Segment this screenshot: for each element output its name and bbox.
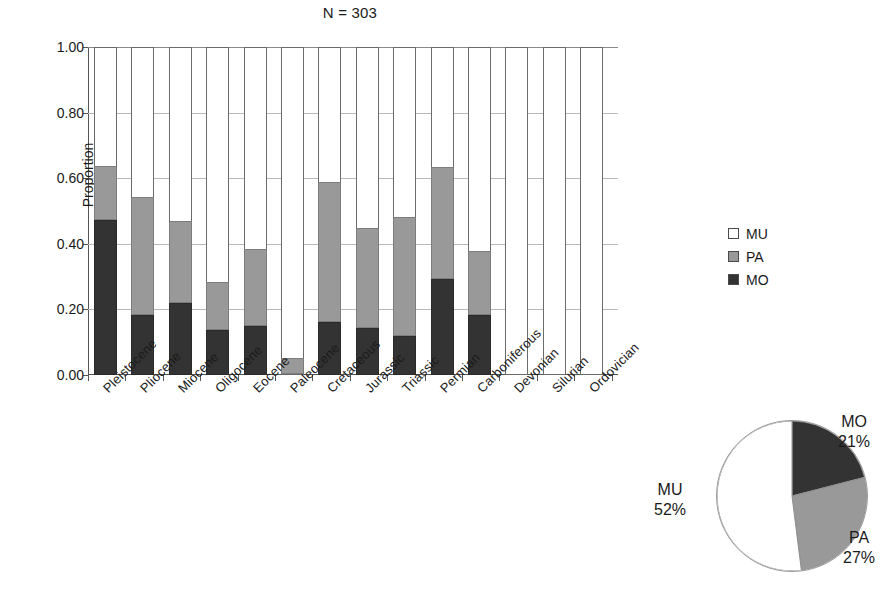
pie-label-mu: MU 52% bbox=[654, 480, 686, 520]
legend-item-mo[interactable]: MO bbox=[728, 268, 769, 291]
legend-label-pa: PA bbox=[746, 250, 764, 264]
pie-label-mu-name: MU bbox=[658, 481, 683, 498]
bar-segment-pa[interactable] bbox=[431, 167, 454, 279]
bar-segment-mo[interactable] bbox=[94, 220, 117, 375]
bar-column[interactable] bbox=[281, 47, 304, 375]
pie-label-mo-name: MO bbox=[841, 413, 867, 430]
bar-segment-pa[interactable] bbox=[244, 249, 267, 326]
plot-frame bbox=[88, 47, 618, 375]
pie-slice-mu[interactable] bbox=[717, 421, 801, 571]
chart-subtitle: N = 303 bbox=[0, 4, 700, 21]
x-tick-mark bbox=[88, 375, 89, 381]
bar-segment-pa[interactable] bbox=[169, 221, 192, 303]
legend-label-mo: MO bbox=[746, 273, 769, 287]
bar-column[interactable] bbox=[431, 47, 454, 375]
bar-segment-pa[interactable] bbox=[356, 228, 379, 328]
bar-segment-pa[interactable] bbox=[131, 197, 154, 315]
bar-segment-pa[interactable] bbox=[468, 251, 491, 315]
pie-label-pa-percent: 27% bbox=[843, 548, 875, 568]
bar-column[interactable] bbox=[393, 47, 416, 375]
gridline bbox=[88, 113, 618, 114]
pie-label-mo: MO 21% bbox=[838, 412, 870, 452]
bar-column[interactable] bbox=[580, 47, 603, 375]
y-tick-label: 1.00 bbox=[24, 39, 84, 55]
bar-column[interactable] bbox=[94, 47, 117, 375]
legend-item-mu[interactable]: MU bbox=[728, 222, 769, 245]
bar-column[interactable] bbox=[505, 47, 528, 375]
bar-column[interactable] bbox=[244, 47, 267, 375]
bar-column[interactable] bbox=[169, 47, 192, 375]
pie-label-pa: PA 27% bbox=[843, 528, 875, 568]
bar-segment-pa[interactable] bbox=[206, 282, 229, 330]
bar-column[interactable] bbox=[356, 47, 379, 375]
legend-item-pa[interactable]: PA bbox=[728, 245, 769, 268]
legend-swatch-icon-mu bbox=[728, 228, 739, 239]
legend: MUPAMO bbox=[728, 222, 769, 291]
legend-swatch-icon-mo bbox=[728, 274, 739, 285]
y-tick-label: 0.20 bbox=[24, 301, 84, 317]
legend-label-mu: MU bbox=[746, 227, 768, 241]
y-tick-label: 0.00 bbox=[24, 367, 84, 383]
bar-column[interactable] bbox=[543, 47, 566, 375]
bar-segment-pa[interactable] bbox=[94, 166, 117, 220]
bar-column[interactable] bbox=[131, 47, 154, 375]
y-tick-label: 0.80 bbox=[24, 105, 84, 121]
pie-label-pa-name: PA bbox=[849, 529, 869, 546]
plot-area: 0.000.200.400.600.801.00 Proportion Plei… bbox=[88, 47, 618, 375]
figure-stacked-bar-and-pie: N = 303 0.000.200.400.600.801.00 Proport… bbox=[0, 0, 882, 589]
gridline bbox=[88, 309, 618, 310]
gridline bbox=[88, 244, 618, 245]
bar-column[interactable] bbox=[318, 47, 341, 375]
gridline bbox=[88, 178, 618, 179]
bar-segment-pa[interactable] bbox=[318, 182, 341, 321]
pie-label-mu-percent: 52% bbox=[654, 500, 686, 520]
pie-chart-block: MO 21% PA 27% MU 52% bbox=[688, 408, 882, 589]
legend-swatch-icon-pa bbox=[728, 251, 739, 262]
y-tick-label: 0.60 bbox=[24, 170, 84, 186]
bar-column[interactable] bbox=[206, 47, 229, 375]
gridline bbox=[88, 47, 618, 48]
pie-label-mo-percent: 21% bbox=[838, 432, 870, 452]
bar-segment-pa[interactable] bbox=[393, 217, 416, 337]
bar-column[interactable] bbox=[468, 47, 491, 375]
y-tick-label: 0.40 bbox=[24, 236, 84, 252]
